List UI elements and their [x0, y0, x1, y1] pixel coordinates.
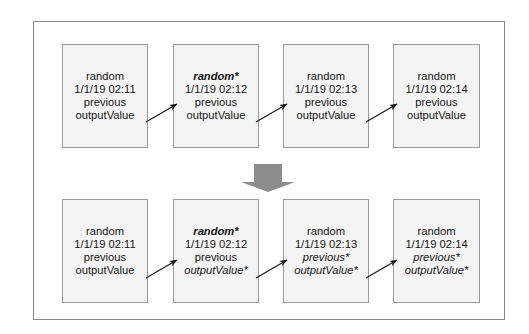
record-box-1-line-3: previous: [84, 96, 126, 109]
record-box-3: random 1/1/19 02:13 previous outputValue: [283, 44, 369, 148]
record-box-4: random 1/1/19 02:14 previous outputValue: [393, 44, 480, 148]
record-box-6-line-4: outputValue*: [184, 264, 248, 277]
record-box-4-line-4: outputValue: [407, 109, 466, 122]
record-box-5-line-3: previous: [84, 251, 126, 264]
record-box-8: random 1/1/19 02:14 previous* outputValu…: [393, 199, 480, 303]
record-box-3-line-2: 1/1/19 02:13: [295, 83, 357, 96]
record-box-1-line-2: 1/1/19 02:11: [74, 83, 135, 96]
record-box-2-line-1: random*: [193, 70, 238, 83]
record-box-8-line-3: previous*: [413, 251, 460, 264]
record-box-7-line-3: previous*: [303, 251, 350, 264]
record-box-7-line-2: 1/1/19 02:13: [295, 238, 357, 251]
record-box-6-line-1: random*: [193, 225, 238, 238]
record-box-5: random 1/1/19 02:11 previous outputValue: [62, 199, 148, 303]
record-box-8-line-2: 1/1/19 02:14: [405, 238, 467, 251]
record-box-7-line-4: outputValue*: [294, 264, 358, 277]
record-box-2-line-3: previous: [195, 96, 237, 109]
record-box-3-line-3: previous: [305, 96, 347, 109]
record-box-1-line-4: outputValue: [76, 109, 135, 122]
record-box-4-line-3: previous: [415, 96, 457, 109]
record-box-5-line-1: random: [86, 225, 124, 238]
record-box-2-line-2: 1/1/19 02:12: [185, 83, 247, 96]
record-box-4-line-2: 1/1/19 02:14: [405, 83, 467, 96]
record-box-6-line-3: previous: [195, 251, 237, 264]
record-box-8-line-1: random: [418, 225, 456, 238]
record-box-6-line-2: 1/1/19 02:12: [185, 238, 247, 251]
record-box-2-line-4: outputValue: [187, 109, 246, 122]
record-box-1: random 1/1/19 02:11 previous outputValue: [62, 44, 148, 148]
record-box-3-line-1: random: [307, 70, 345, 83]
record-box-6: random* 1/1/19 02:12 previous outputValu…: [173, 199, 259, 303]
record-box-1-line-1: random: [86, 70, 124, 83]
diagram-canvas: random 1/1/19 02:11 previous outputValue…: [0, 0, 529, 334]
record-box-2: random* 1/1/19 02:12 previous outputValu…: [173, 44, 259, 148]
record-box-3-line-4: outputValue: [297, 109, 356, 122]
record-box-8-line-4: outputValue*: [405, 264, 469, 277]
record-box-7-line-1: random: [307, 225, 345, 238]
record-box-5-line-4: outputValue: [76, 264, 135, 277]
record-box-4-line-1: random: [418, 70, 456, 83]
record-box-5-line-2: 1/1/19 02:11: [74, 238, 135, 251]
record-box-7: random 1/1/19 02:13 previous* outputValu…: [283, 199, 369, 303]
